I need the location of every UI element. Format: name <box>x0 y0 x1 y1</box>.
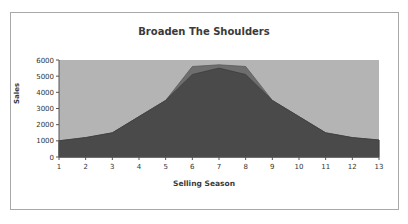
y-tick-label: 3000 <box>36 105 54 113</box>
x-axis: 12345678910111213 <box>57 157 384 171</box>
y-tick-label: 1000 <box>36 137 54 145</box>
x-tick-label: 5 <box>163 163 167 171</box>
x-tick-label: 10 <box>295 163 304 171</box>
x-tick-label: 11 <box>321 163 330 171</box>
x-tick-label: 7 <box>217 163 221 171</box>
y-tick-label: 4000 <box>36 89 54 97</box>
area-chart: 0100020003000400050006000 12345678910111… <box>0 0 408 224</box>
x-tick-label: 13 <box>375 163 384 171</box>
x-tick-label: 3 <box>110 163 114 171</box>
plot-area <box>59 60 379 157</box>
y-tick-label: 5000 <box>36 73 54 81</box>
x-tick-label: 8 <box>243 163 247 171</box>
y-tick-label: 0 <box>50 154 54 162</box>
y-tick-label: 2000 <box>36 121 54 129</box>
x-tick-label: 9 <box>270 163 274 171</box>
x-tick-label: 6 <box>190 163 195 171</box>
y-tick-label: 6000 <box>36 57 54 65</box>
x-tick-label: 1 <box>57 163 61 171</box>
y-axis: 0100020003000400050006000 <box>36 57 59 162</box>
x-tick-label: 2 <box>83 163 87 171</box>
x-tick-label: 12 <box>348 163 357 171</box>
x-tick-label: 4 <box>137 163 142 171</box>
